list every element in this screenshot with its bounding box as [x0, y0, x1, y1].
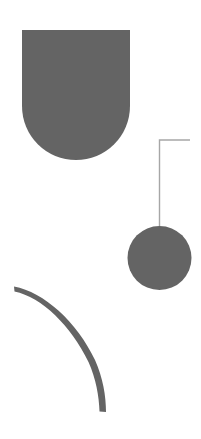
pendulum-bob — [128, 226, 192, 290]
figure-svg — [0, 0, 201, 439]
figure-canvas — [0, 0, 201, 439]
arch-shape — [22, 30, 130, 160]
